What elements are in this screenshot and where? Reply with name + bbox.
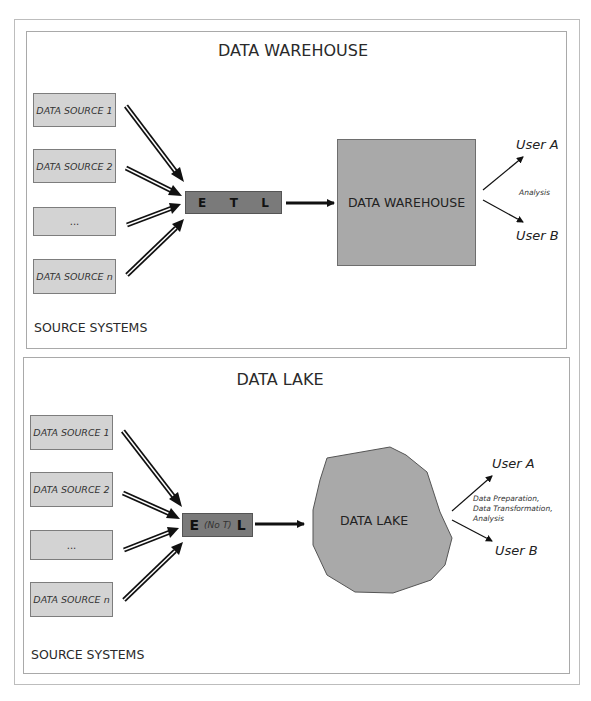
lake-arrow-user-a [452, 476, 492, 511]
lake-arrow-user-b [452, 520, 492, 541]
dw-source-arrows [126, 106, 184, 275]
lake-source-arrows [123, 431, 183, 600]
diagram-connectors [0, 0, 591, 701]
data-lake-store-label: DATA LAKE [340, 513, 408, 528]
dw-arrow-user-a [483, 157, 523, 190]
dw-arrow-user-b [483, 200, 523, 222]
